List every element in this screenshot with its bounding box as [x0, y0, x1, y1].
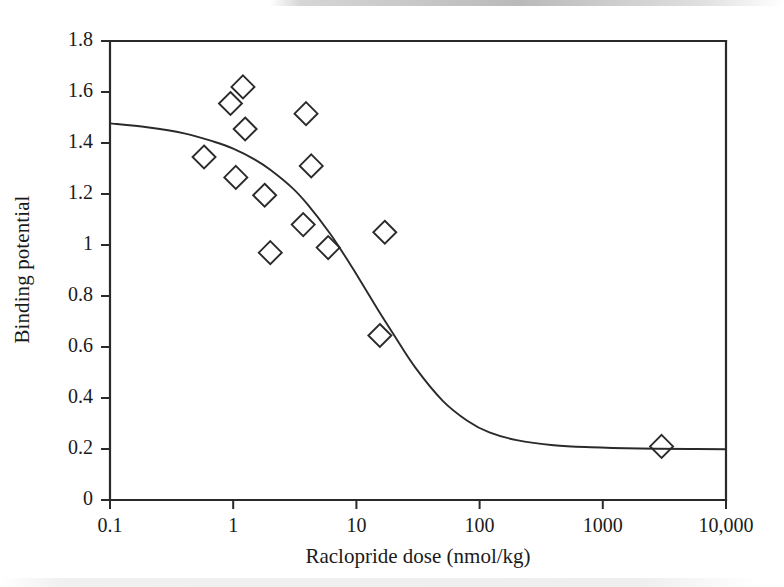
y-axis-title: Binding potential [10, 169, 35, 369]
data-point-marker [259, 241, 282, 264]
x-axis-title: Raclopride dose (nmol/kg) [218, 544, 618, 569]
x-tick-label: 10 [286, 514, 426, 537]
y-tick-label: 1.6 [0, 79, 93, 102]
data-point-marker [193, 146, 216, 169]
x-tick-label: 0.1 [40, 514, 180, 537]
x-tick-label: 10,000 [656, 514, 784, 537]
fitted-curve [110, 123, 726, 449]
y-tick-label: 0.2 [0, 436, 93, 459]
data-point-marker [219, 92, 242, 115]
x-tick-label: 100 [410, 514, 550, 537]
data-point-marker [253, 184, 276, 207]
plot-frame [110, 41, 726, 500]
data-point-marker [231, 75, 254, 98]
data-point-marker [650, 435, 673, 458]
x-axis-ticks [110, 500, 726, 509]
data-point-marker [295, 102, 318, 125]
data-point-marker [373, 221, 396, 244]
data-point-markers [193, 75, 674, 458]
y-tick-label: 0 [0, 487, 93, 510]
data-point-marker [317, 236, 340, 259]
data-point-marker [224, 166, 247, 189]
y-tick-label: 1.8 [0, 28, 93, 51]
data-point-marker [300, 154, 323, 177]
data-point-marker [292, 213, 315, 236]
y-axis-ticks [101, 41, 110, 500]
dose-response-chart: 00.20.40.60.811.21.41.61.8 0.11101001000… [0, 0, 784, 587]
plot-canvas [0, 0, 784, 587]
y-tick-label: 0.4 [0, 385, 93, 408]
x-tick-label: 1000 [533, 514, 673, 537]
x-tick-label: 1 [163, 514, 303, 537]
data-point-marker [368, 324, 391, 347]
data-point-marker [234, 117, 257, 140]
y-tick-label: 1.4 [0, 130, 93, 153]
